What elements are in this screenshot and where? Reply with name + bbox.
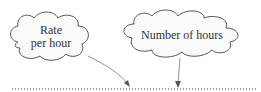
cloud-label-rate: Rate per hour [26,24,76,50]
cloud-label-hours: Number of hours [136,29,228,42]
arrow-rate [88,56,130,87]
arrow-hours [175,58,181,88]
hours-line-1: Number of hours [136,29,228,42]
rate-line-2: per hour [26,37,76,50]
